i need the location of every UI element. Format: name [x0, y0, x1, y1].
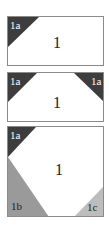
- corner-label-1a-left: 1a: [10, 76, 20, 87]
- corner-label-1b: 1b: [11, 201, 22, 212]
- corner-label-1a: 1a: [10, 20, 20, 31]
- panel-3: 1a 1b 1c 1: [7, 126, 104, 217]
- panel-1: 1a 1: [7, 16, 104, 66]
- corner-label-1a-right: 1a: [91, 76, 101, 87]
- region-label-1: 1: [53, 95, 61, 111]
- corner-label-1a: 1a: [10, 130, 20, 141]
- region-label-1: 1: [53, 35, 61, 51]
- region-label-1: 1: [55, 162, 63, 178]
- panel-2: 1a 1a 1: [7, 72, 104, 122]
- corner-label-1c: 1c: [87, 202, 97, 213]
